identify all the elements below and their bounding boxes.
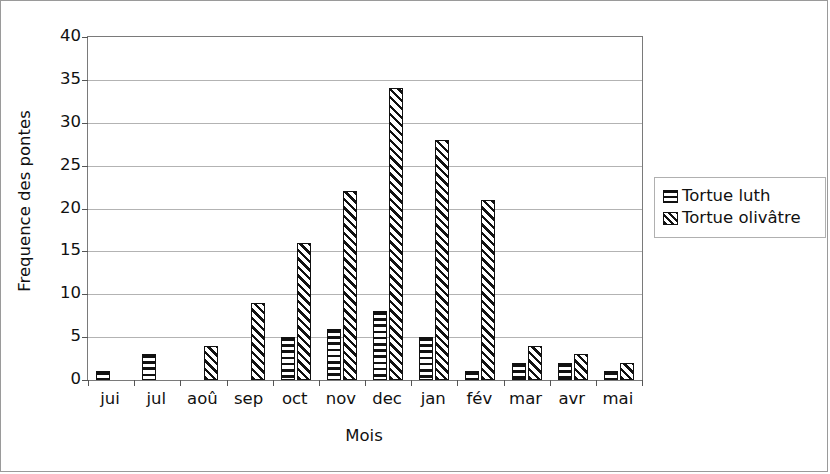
horizontal-stripes-swatch [663, 190, 678, 203]
x-axis-tickmark [180, 380, 181, 386]
bar-group [457, 37, 503, 380]
bar-group [319, 37, 365, 380]
bar-avr-luth [558, 363, 572, 380]
x-axis-tickmark [365, 380, 366, 386]
y-axis-tick-label: 40 [41, 28, 81, 45]
legend-item-olivatre: Tortue olivâtre [663, 207, 819, 229]
bar-group [273, 37, 319, 380]
chart-legend: Tortue luthTortue olivâtre [654, 177, 826, 238]
y-axis-tick-label: 10 [41, 285, 81, 302]
x-axis-tick-label-mai: mai [595, 391, 641, 408]
x-axis-tick-label-nov: nov [318, 391, 364, 408]
x-axis-tick-label-jan: jan [410, 391, 456, 408]
bar-avr-olivatre [574, 354, 588, 380]
x-axis-tick-label-dec: dec [364, 391, 410, 408]
y-axis-tick-label: 35 [41, 71, 81, 88]
x-axis-tickmark [457, 380, 458, 386]
x-axis-tickmark [550, 380, 551, 386]
bar-group [180, 37, 226, 380]
bar-jul-luth [142, 354, 156, 380]
y-axis-tick-label: 5 [41, 328, 81, 345]
x-axis-tick-label-mar: mar [503, 391, 549, 408]
legend-item-label: Tortue olivâtre [682, 210, 801, 227]
x-axis-tickmark [319, 380, 320, 386]
chart-figure: Frequence des pontes 0510152025303540 ju… [0, 0, 828, 472]
y-axis-tick-labels: 0510152025303540 [37, 36, 81, 379]
bar-mar-olivatre [528, 346, 542, 380]
x-axis-tick-label-oct: oct [272, 391, 318, 408]
bar-group [227, 37, 273, 380]
bar-jui-luth [96, 371, 110, 380]
bar-sep-olivatre [251, 303, 265, 380]
bar-fév-olivatre [481, 200, 495, 380]
bar-group [365, 37, 411, 380]
bar-group [550, 37, 596, 380]
bar-nov-luth [327, 329, 341, 380]
bar-mai-luth [604, 371, 618, 380]
x-axis-tickmark [134, 380, 135, 386]
legend-item-label: Tortue luth [682, 188, 770, 205]
bar-jan-olivatre [435, 140, 449, 380]
x-axis-tick-label-jul: jul [133, 391, 179, 408]
x-axis-tickmark [596, 380, 597, 386]
x-axis-tickmark [504, 380, 505, 386]
bar-nov-olivatre [343, 191, 357, 380]
x-axis-tickmark [88, 380, 89, 386]
bar-group [88, 37, 134, 380]
y-axis-tick-label: 0 [41, 371, 81, 388]
bar-group [411, 37, 457, 380]
bar-group [504, 37, 550, 380]
y-axis-tick-label: 25 [41, 157, 81, 174]
y-axis-tick-label: 20 [41, 200, 81, 217]
bar-oct-luth [281, 337, 295, 380]
bar-jan-luth [419, 337, 433, 380]
bar-aoû-olivatre [204, 346, 218, 380]
bar-group [134, 37, 180, 380]
legend-item-luth: Tortue luth [663, 185, 819, 207]
x-axis-tick-labels: juijulaoûsepoctnovdecjanfévmaravrmai [87, 391, 641, 415]
bar-fév-luth [465, 371, 479, 380]
x-axis-tickmark [411, 380, 412, 386]
x-axis-tick-label-avr: avr [549, 391, 595, 408]
x-axis-tick-label-aoû: aoû [179, 391, 225, 408]
x-axis-title: Mois [87, 426, 641, 445]
x-axis-tick-label-fév: fév [456, 391, 502, 408]
x-axis-tickmark [273, 380, 274, 386]
bar-mar-luth [512, 363, 526, 380]
bar-oct-olivatre [297, 243, 311, 380]
bar-mai-olivatre [620, 363, 634, 380]
bar-dec-luth [373, 311, 387, 380]
bar-group [596, 37, 642, 380]
diagonal-stripes-swatch [663, 212, 678, 225]
x-axis-tickmark [227, 380, 228, 386]
y-axis-tick-label: 15 [41, 242, 81, 259]
x-axis-tick-label-jui: jui [87, 391, 133, 408]
bar-dec-olivatre [389, 88, 403, 380]
plot-area [87, 36, 643, 381]
x-axis-tickmark [642, 380, 643, 386]
y-axis-tick-label: 30 [41, 114, 81, 131]
y-axis-title: Frequence des pontes [15, 0, 34, 91]
y-axis-title-label: Frequence des pontes [15, 91, 34, 311]
x-axis-tick-label-sep: sep [226, 391, 272, 408]
